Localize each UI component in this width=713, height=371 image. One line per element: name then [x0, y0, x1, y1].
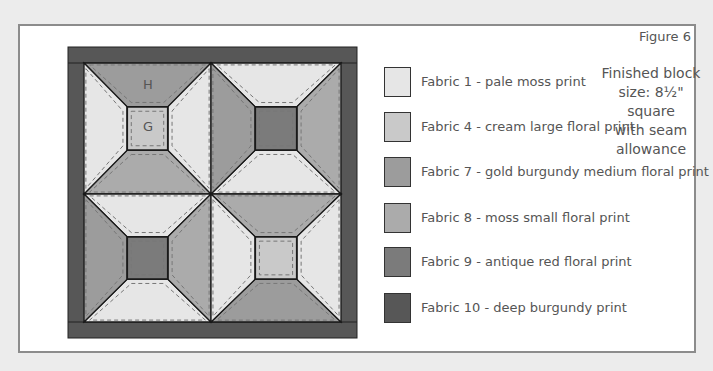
legend-item-fabric-9: Fabric 9 - antique red floral print [384, 247, 684, 277]
legend-label: Fabric 10 - deep burgundy print [421, 300, 627, 315]
center-square [255, 107, 297, 150]
legend-item-fabric-8: Fabric 8 - moss small floral print [384, 203, 684, 233]
legend-label: Fabric 8 - moss small floral print [421, 210, 630, 225]
legend-label: Fabric 1 - pale moss print [421, 74, 586, 89]
fabric-swatch [384, 293, 411, 323]
piece-label-g: G [143, 119, 153, 134]
legend-item-fabric-4: Fabric 4 - cream large floral print [384, 112, 684, 142]
legend-item-fabric-1: Fabric 1 - pale moss print [384, 67, 684, 97]
legend-item-fabric-7: Fabric 7 - gold burgundy medium floral p… [384, 157, 684, 187]
legend-label: Fabric 4 - cream large floral print [421, 119, 635, 134]
legend-label: Fabric 7 - gold burgundy medium floral p… [421, 164, 709, 179]
fabric-swatch [384, 112, 411, 142]
center-square [127, 237, 168, 279]
figure-label: Figure 6 [639, 29, 691, 44]
fabric-swatch [384, 203, 411, 233]
piece-label-h: H [143, 77, 153, 92]
legend-item-fabric-10: Fabric 10 - deep burgundy print [384, 293, 684, 323]
fabric-swatch [384, 157, 411, 187]
legend-label: Fabric 9 - antique red floral print [421, 254, 632, 269]
fabric-swatch [384, 67, 411, 97]
center-square [255, 237, 297, 279]
fabric-swatch [384, 247, 411, 277]
